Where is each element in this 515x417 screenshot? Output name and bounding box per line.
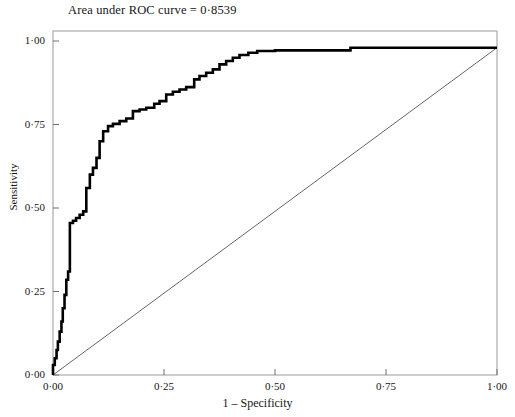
x-tick-label-050: 0·50 xyxy=(250,380,300,392)
x-tick-label-075: 0·75 xyxy=(361,380,411,392)
chart-title: Area under ROC curve = 0·8539 xyxy=(68,3,237,18)
y-tick-label-050: 0·50 xyxy=(5,201,45,213)
y-tick-label-025: 0·25 xyxy=(5,285,45,297)
x-axis-title: 1 – Specificity xyxy=(0,396,515,411)
x-tick-label-0: 0·00 xyxy=(28,380,78,392)
x-tick-label-025: 0·25 xyxy=(139,380,189,392)
plot-frame xyxy=(53,31,497,375)
y-tick-label-0: 0·00 xyxy=(5,368,45,380)
plot-area xyxy=(0,0,515,417)
y-tick-label-1: 1·00 xyxy=(5,34,45,46)
axis-tick-marks xyxy=(53,41,497,375)
reference-diagonal-line xyxy=(53,48,497,375)
y-tick-label-075: 0·75 xyxy=(5,118,45,130)
y-axis-title: Sensitivity xyxy=(7,147,19,227)
roc-curve-figure: Area under ROC curve = 0·8539 Sensitivit… xyxy=(0,0,515,417)
x-tick-label-1: 1·00 xyxy=(472,380,515,392)
